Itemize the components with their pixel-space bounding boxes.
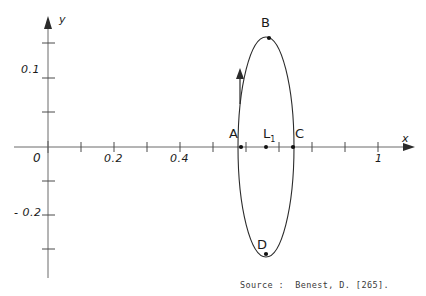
plot-canvas — [0, 0, 426, 296]
point-label-b: B — [261, 16, 270, 29]
marker-point-a — [239, 145, 243, 149]
y-tick-label-0-1: 0.1 — [21, 64, 40, 75]
orbit-figure: y x 0 0.2 0.4 1 0.1 - 0.2 A B C D L1 Sou… — [0, 0, 426, 296]
y-tick-label-neg-0-2: - 0.2 — [14, 207, 41, 218]
marker-point-l1 — [264, 145, 268, 149]
marker-point-c — [291, 145, 295, 149]
marker-point-b — [267, 36, 271, 40]
point-label-d: D — [257, 238, 267, 251]
point-label-a: A — [229, 127, 238, 140]
x-tick-label-1: 1 — [375, 153, 383, 164]
point-label-l1-subscript: 1 — [270, 135, 275, 144]
x-tick-label-0-2: 0.2 — [104, 153, 123, 164]
origin-tick-label: 0 — [33, 152, 41, 164]
point-label-l1: L1 — [263, 127, 275, 144]
y-axis-label: y — [59, 14, 66, 25]
source-caption: Source : Benest, D. [265]. — [240, 280, 389, 290]
x-axis — [14, 141, 415, 153]
x-tick-label-0-4: 0.4 — [170, 153, 189, 164]
point-label-c: C — [295, 127, 304, 140]
marker-point-d — [264, 252, 268, 256]
x-axis-label: x — [402, 133, 409, 144]
